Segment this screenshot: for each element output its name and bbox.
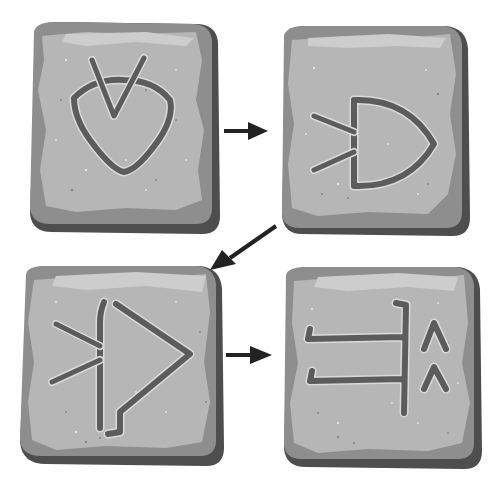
stone-face: [290, 275, 470, 453]
stone-tablet-4-graphic: [278, 263, 484, 471]
arrow-right-icon: [222, 120, 272, 142]
stone-tablet-2-graphic: [278, 24, 472, 238]
stone-tablet-2: [278, 24, 472, 238]
stone-tablet-1-graphic: [26, 20, 222, 236]
stone-face: [38, 32, 204, 212]
stone-tablet-1: [26, 20, 222, 236]
stone-tablet-3: [16, 262, 226, 468]
flow-arrow-1-to-2: [222, 120, 272, 142]
stone-tablet-3-graphic: [16, 262, 226, 468]
arrow-right-icon: [224, 344, 276, 366]
stone-tablet-4: [278, 263, 484, 471]
flow-arrow-3-to-4: [224, 344, 276, 366]
flow-arrow-2-to-3: [208, 222, 280, 272]
arrow-down-left-icon: [208, 222, 280, 272]
